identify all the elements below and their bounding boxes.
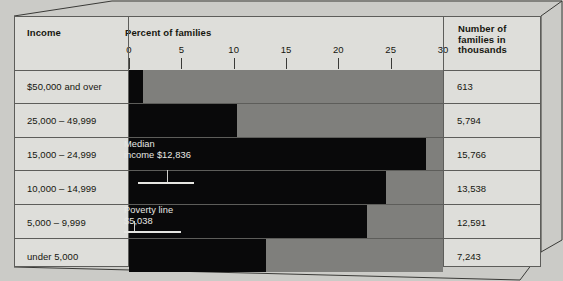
row-family-count: 5,794: [457, 115, 481, 126]
row-bar-track: [129, 171, 443, 204]
axis-tick-mark: [338, 58, 339, 69]
chart-panel: Income Percent of families Number of fam…: [14, 16, 541, 267]
axis-tick-mark: [234, 58, 235, 69]
axis-tick-mark: [286, 58, 287, 69]
row-family-count: 13,538: [457, 182, 486, 193]
row-family-count: 15,766: [457, 149, 486, 160]
annotation-poverty-line1: Poverty line: [124, 205, 173, 215]
median-marker-bar: [138, 182, 194, 184]
poverty-marker-bar: [124, 231, 181, 233]
axis-tick-label: 15: [281, 44, 292, 55]
median-marker-stem: [167, 170, 168, 182]
axis-tick-label: 20: [333, 44, 344, 55]
row-family-count: 7,243: [457, 250, 481, 261]
chart-header: Income Percent of families Number of fam…: [15, 17, 540, 70]
annotation-median-line2: income $12,836: [124, 150, 191, 160]
row-family-count: 12,591: [457, 216, 486, 227]
annotation-median-line1: Median: [124, 139, 155, 149]
chart-rows: $50,000 and over61325,000 – 49,9995,7941…: [15, 70, 540, 267]
row-bar-track: [129, 104, 443, 137]
row-income-label: under 5,000: [27, 250, 78, 261]
row-bar-track: [129, 205, 443, 238]
chart-row: under 5,0007,243: [15, 238, 540, 272]
row-family-count: 613: [457, 81, 473, 92]
annotation-median: Median income $12,836: [124, 139, 191, 161]
axis-tick-mark: [181, 58, 182, 69]
axis-tick-mark: [129, 58, 130, 69]
row-bar-track: [129, 70, 443, 103]
axis-tick-label: 25: [385, 44, 396, 55]
row-income-label: $50,000 and over: [27, 81, 102, 92]
bar-value: [129, 239, 266, 272]
row-income-label: 15,000 – 24,999: [27, 149, 96, 160]
chart-screenshot: Income Percent of families Number of fam…: [0, 0, 563, 281]
chart-row: 10,000 – 14,99913,538: [15, 170, 540, 204]
axis-tick-mark: [391, 58, 392, 69]
column-divider-left-top: [128, 17, 129, 70]
annotation-poverty: Poverty line $5,038: [124, 205, 173, 227]
axis-tick-label: 5: [179, 44, 184, 55]
row-income-label: 5,000 – 9,999: [27, 216, 86, 227]
axis-tick-label: 10: [228, 44, 239, 55]
bar-value: [129, 104, 237, 137]
bar-value: [129, 70, 143, 103]
row-income-label: 25,000 – 49,999: [27, 115, 96, 126]
poverty-marker-stem: [134, 221, 135, 231]
bar-background: [129, 70, 443, 103]
chart-row: 15,000 – 24,99915,766: [15, 137, 540, 171]
column-divider-right-top: [443, 17, 444, 70]
row-income-label: 10,000 – 14,999: [27, 182, 96, 193]
row-bar-track: [129, 239, 443, 272]
chart-row: $50,000 and over613: [15, 70, 540, 103]
annotation-poverty-line2: $5,038: [124, 216, 153, 226]
chart-row: 25,000 – 49,9995,794: [15, 103, 540, 137]
x-axis: 051015202530: [15, 17, 540, 70]
chart-row: 5,000 – 9,99912,591: [15, 204, 540, 238]
